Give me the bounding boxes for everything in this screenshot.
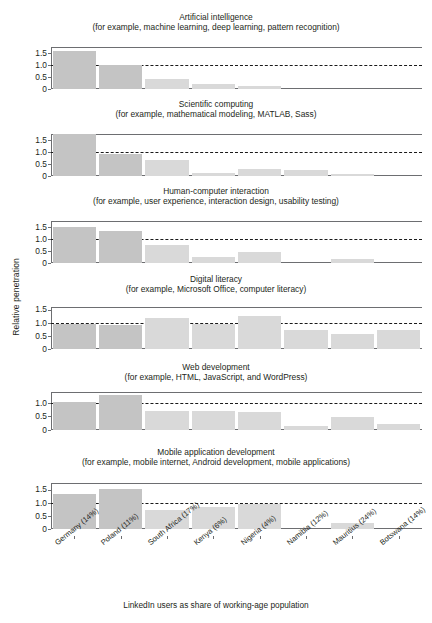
y-tick-label: 0 xyxy=(21,171,47,181)
y-tick-mark xyxy=(48,89,51,90)
y-tick-label: 1.0 xyxy=(21,60,47,70)
plot-top-rule xyxy=(51,483,422,484)
bar xyxy=(238,169,281,176)
y-tick-mark xyxy=(48,336,51,337)
plot-area xyxy=(51,392,422,430)
y-tick-label: 1.0 xyxy=(21,398,47,408)
x-tick-mark xyxy=(74,536,75,539)
bar xyxy=(145,318,188,350)
y-tick-mark xyxy=(48,516,51,517)
panel-title-main: Scientific computing xyxy=(179,99,253,109)
plot-area xyxy=(51,134,422,176)
panel-title: Human-computer interaction(for example, … xyxy=(0,186,432,207)
panel-title-subtitle: (for example, mathematical modeling, MAT… xyxy=(0,109,432,119)
bar xyxy=(145,411,188,430)
y-tick-label: 0.5 xyxy=(21,159,47,169)
bar xyxy=(377,424,420,430)
panel-title-main: Web development xyxy=(182,362,249,372)
y-tick-mark xyxy=(48,164,51,165)
y-tick-label: 0 xyxy=(21,524,47,534)
y-tick-mark xyxy=(48,529,51,530)
bar xyxy=(238,252,281,263)
y-tick-mark xyxy=(48,251,51,252)
y-tick-mark xyxy=(48,403,51,404)
bar xyxy=(192,324,235,349)
bar xyxy=(331,259,374,263)
bar xyxy=(53,227,96,263)
plot-top-rule xyxy=(51,307,422,308)
plot-top-rule xyxy=(51,134,422,135)
x-axis-labels: Germany (14%)Poland (11%)South Africa (1… xyxy=(0,536,432,606)
bar xyxy=(238,86,281,89)
bar xyxy=(192,173,235,176)
bar xyxy=(99,154,142,176)
y-tick-label: 1.0 xyxy=(21,147,47,157)
bar xyxy=(99,395,142,430)
bar xyxy=(238,316,281,349)
y-tick-mark xyxy=(48,65,51,66)
plot-area xyxy=(51,221,422,263)
x-tick-mark xyxy=(121,536,122,539)
panel-title-main: Artificial intelligence xyxy=(179,12,253,22)
bar xyxy=(284,170,327,176)
y-tick-label: 0.5 xyxy=(21,246,47,256)
panel-title-subtitle: (for example, Microsoft Office, computer… xyxy=(0,284,432,294)
y-tick-label: 1.5 xyxy=(21,484,47,494)
bar xyxy=(99,325,142,349)
plot-area xyxy=(51,47,422,89)
bar xyxy=(53,134,96,176)
y-tick-label: 0.5 xyxy=(21,72,47,82)
bar xyxy=(99,65,142,89)
plot-top-rule xyxy=(51,47,422,48)
panel-title: Scientific computing(for example, mathem… xyxy=(0,99,432,120)
y-tick-mark xyxy=(48,430,51,431)
x-tick-mark xyxy=(352,536,353,539)
y-tick-mark xyxy=(48,239,51,240)
y-tick-mark xyxy=(48,416,51,417)
bar xyxy=(192,257,235,263)
panel-title: Digital literacy(for example, Microsoft … xyxy=(0,274,432,295)
x-tick-mark xyxy=(306,536,307,539)
figure-caption: LinkedIn users as share of working-age p… xyxy=(0,600,432,610)
y-tick-label: 0 xyxy=(21,425,47,435)
y-tick-mark xyxy=(48,152,51,153)
y-tick-mark xyxy=(48,503,51,504)
y-tick-mark xyxy=(48,176,51,177)
panel-title: Web development(for example, HTML, JavaS… xyxy=(0,362,432,383)
panel-title-subtitle: (for example, machine learning, deep lea… xyxy=(0,22,432,32)
bar xyxy=(53,402,96,431)
y-tick-label: 1.0 xyxy=(21,318,47,328)
y-tick-label: 0 xyxy=(21,258,47,268)
x-tick-mark xyxy=(399,536,400,539)
panel-title: Mobile application development(for examp… xyxy=(0,447,432,468)
y-tick-label: 1.5 xyxy=(21,48,47,58)
panel-title-main: Human-computer interaction xyxy=(163,186,269,196)
bar xyxy=(331,417,374,430)
bar xyxy=(53,324,96,349)
reference-line xyxy=(51,323,422,324)
panel-title-subtitle: (for example, HTML, JavaScript, and Word… xyxy=(0,372,432,382)
y-tick-mark xyxy=(48,227,51,228)
panel-title-subtitle: (for example, user experience, interacti… xyxy=(0,196,432,206)
bar xyxy=(53,51,96,89)
y-tick-mark xyxy=(48,53,51,54)
y-tick-label: 1.5 xyxy=(21,304,47,314)
x-tick-mark xyxy=(213,536,214,539)
bar xyxy=(377,330,420,349)
y-tick-mark xyxy=(48,490,51,491)
y-tick-mark xyxy=(48,263,51,264)
bar xyxy=(145,245,188,263)
bar xyxy=(99,231,142,263)
y-tick-label: 1.5 xyxy=(21,222,47,232)
bar xyxy=(192,84,235,89)
chart-figure: Relative penetration Artificial intellig… xyxy=(0,0,432,623)
bar xyxy=(192,411,235,430)
x-tick-mark xyxy=(260,536,261,539)
y-tick-label: 1.0 xyxy=(21,498,47,508)
y-tick-mark xyxy=(48,323,51,324)
y-tick-label: 0.5 xyxy=(21,331,47,341)
plot-top-rule xyxy=(51,392,422,393)
y-tick-mark xyxy=(48,310,51,311)
panel-title: Artificial intelligence(for example, mac… xyxy=(0,12,432,33)
panel-title-main: Digital literacy xyxy=(190,274,242,284)
